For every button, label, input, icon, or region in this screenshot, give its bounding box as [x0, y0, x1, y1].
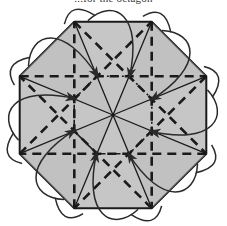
octagon-diagram-svg [0, 0, 227, 226]
diagram-root [7, 9, 219, 221]
figure-page: ...for the octagon [0, 0, 227, 226]
octagon-symmetry-figure [0, 0, 227, 226]
